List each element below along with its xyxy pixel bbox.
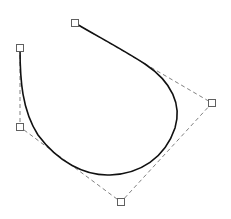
control-point-handle-p3[interactable]: [209, 100, 216, 107]
control-point-handle-p0[interactable]: [17, 45, 24, 52]
bezier-canvas[interactable]: [0, 0, 231, 219]
control-point-handle-p1[interactable]: [17, 124, 24, 131]
control-point-handle-p4[interactable]: [72, 20, 79, 27]
control-point-handle-p2[interactable]: [118, 199, 125, 206]
bezier-curve[interactable]: [20, 23, 177, 175]
